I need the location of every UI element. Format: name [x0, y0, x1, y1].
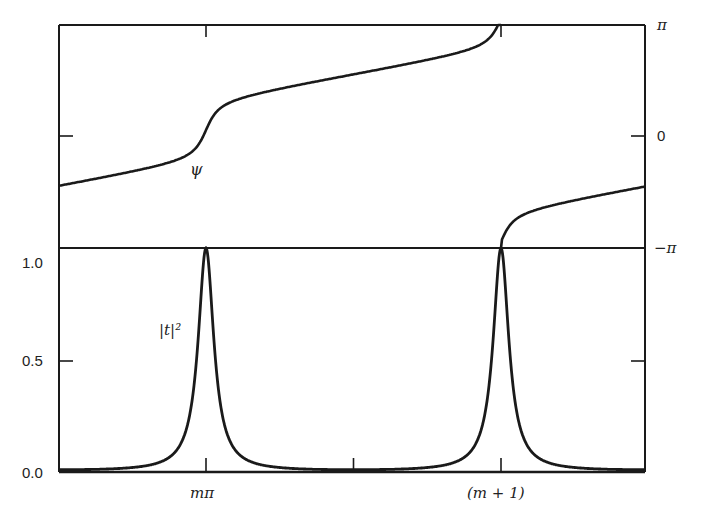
phase-tick-label-zero: 0: [657, 127, 665, 144]
x-tick-label-m-plus-1: (m + 1): [467, 484, 525, 502]
transmission-curve: [59, 248, 645, 470]
plot-frame: [59, 25, 645, 472]
y-tick-label-0.5: 0.5: [22, 352, 43, 369]
chart-figure: [0, 0, 705, 524]
phase-tick-label-pi: π: [657, 16, 667, 34]
y-tick-label-0.0: 0.0: [22, 464, 43, 481]
x-tick-label-m-pi: mπ: [190, 484, 214, 502]
t-squared-label: |t|²: [159, 321, 181, 339]
y-tick-label-1.0: 1.0: [22, 254, 43, 271]
phase-tick-label-minus-pi: −π: [654, 239, 676, 257]
psi-phase-curve: [59, 25, 501, 186]
psi-phase-curve-wrapped: [501, 187, 645, 249]
psi-label: ψ: [190, 160, 203, 179]
